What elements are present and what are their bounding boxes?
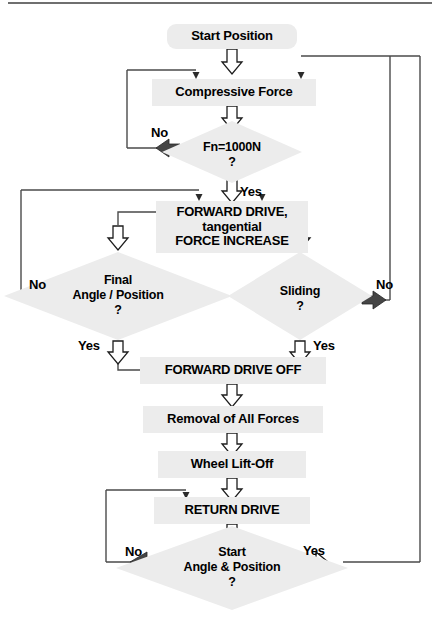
edge-label-fn-no: No xyxy=(151,125,168,140)
edge-label-fn-yes: Yes xyxy=(240,184,262,199)
diamond-fn-check xyxy=(162,121,302,183)
edge-label-sliding-no: No xyxy=(376,277,393,292)
edge-label-start-no: No xyxy=(125,544,142,559)
diamond-sliding xyxy=(228,252,372,340)
fwd-to-final-angle xyxy=(118,212,160,225)
node-wheel-lift-off[interactable]: Wheel Lift-Off xyxy=(158,451,306,478)
node-wheel-lift-off-label: Wheel Lift-Off xyxy=(191,457,273,472)
flowchart-canvas: Start Position Compressive Force FORWARD… xyxy=(0,0,440,619)
tick-into-forward-drive-left xyxy=(196,194,203,201)
node-return-drive[interactable]: RETURN DRIVE xyxy=(154,497,310,524)
node-compressive-force[interactable]: Compressive Force xyxy=(152,79,316,106)
arrow-final-yes xyxy=(108,341,128,364)
edge-label-final-yes: Yes xyxy=(78,338,100,353)
node-start-position[interactable]: Start Position xyxy=(167,24,297,49)
node-removal-of-all-forces[interactable]: Removal of All Forces xyxy=(143,406,323,433)
edge-label-start-yes: Yes xyxy=(303,543,325,558)
arrow-to-final-angle xyxy=(108,226,128,250)
node-forward-drive[interactable]: FORWARD DRIVE, tangential FORCE INCREASE xyxy=(156,201,308,253)
tick-into-compressive-left xyxy=(193,72,200,79)
node-forward-drive-off[interactable]: FORWARD DRIVE OFF xyxy=(140,357,326,384)
edge-label-final-no: No xyxy=(29,277,46,292)
node-return-drive-label: RETURN DRIVE xyxy=(184,503,279,518)
node-start-position-label: Start Position xyxy=(191,29,273,44)
arrow-fn-yes xyxy=(222,180,242,203)
arrow-start-to-compressive xyxy=(222,49,242,74)
diamond-start-check xyxy=(116,526,348,610)
node-removal-of-all-forces-label: Removal of All Forces xyxy=(167,412,299,427)
node-forward-drive-off-label: FORWARD DRIVE OFF xyxy=(165,363,301,378)
node-compressive-force-label: Compressive Force xyxy=(175,85,292,100)
node-forward-drive-label: FORWARD DRIVE, tangential FORCE INCREASE xyxy=(175,205,289,249)
arrow-fwdoff-to-removal xyxy=(222,384,242,407)
diamond-final-angle xyxy=(4,252,232,340)
tick-into-compressive-right xyxy=(298,72,305,79)
edge-label-sliding-yes: Yes xyxy=(313,338,335,353)
